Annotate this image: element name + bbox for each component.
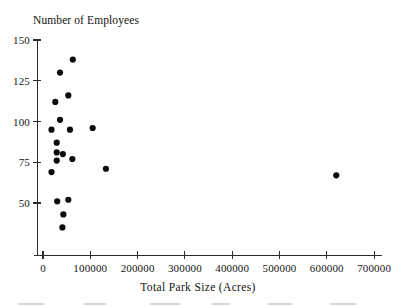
data-point [48,169,54,175]
x-tick-label-500000: 500000 [263,262,297,274]
data-point [333,172,339,178]
data-point [57,70,63,76]
y-tick-label-125: 125 [2,75,30,87]
data-point [65,197,71,203]
y-tick-label-50: 50 [2,197,30,209]
plot-area [0,0,396,307]
data-point [54,140,60,146]
x-axis-label: Total Park Size (Acres) [0,281,396,293]
data-point [48,127,54,133]
axes-group [34,39,382,256]
data-point [90,125,96,131]
y-tick-label-100: 100 [2,116,30,128]
scatter-chart: Number of Employees 5075100125150 010000… [0,0,396,307]
data-point [52,99,58,105]
x-tick-label-200000: 200000 [121,262,155,274]
data-point [67,127,73,133]
data-point [54,158,60,164]
data-point [60,211,66,217]
data-point [103,166,109,172]
y-tick-label-150: 150 [2,34,30,46]
data-point [57,117,63,123]
data-point [69,156,75,162]
data-point [70,56,76,62]
x-tick-label-100000: 100000 [73,262,107,274]
x-tick-label-0: 0 [40,262,46,274]
data-point [54,198,60,204]
x-tick-label-700000: 700000 [357,262,391,274]
data-points-group [48,56,339,230]
x-tick-label-600000: 600000 [310,262,344,274]
y-tick-label-75: 75 [2,156,30,168]
x-tick-label-400000: 400000 [215,262,249,274]
x-tick-label-300000: 300000 [168,262,202,274]
data-point [59,224,65,230]
data-point [60,151,66,157]
data-point [54,149,60,155]
data-point [65,92,71,98]
